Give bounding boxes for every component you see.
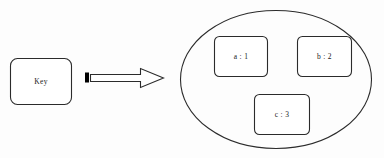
diagram-shapes xyxy=(0,0,384,158)
entry-box-1[interactable] xyxy=(298,37,352,77)
key-box-shape[interactable] xyxy=(11,59,72,105)
block-arrow-icon xyxy=(91,69,164,88)
arrow-tail-marker-icon xyxy=(85,73,89,83)
entry-box-2[interactable] xyxy=(255,95,310,135)
entry-box-0[interactable] xyxy=(215,37,268,77)
diagram-canvas: Key a : 1 b : 2 c : 3 xyxy=(0,0,384,158)
